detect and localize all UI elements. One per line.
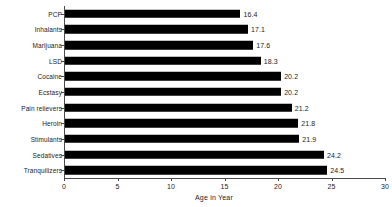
bar-value-label: 24.5 <box>330 167 344 174</box>
y-axis-tick <box>61 14 64 15</box>
x-axis-tick <box>385 178 386 181</box>
category-label: Ecstasy <box>39 88 62 95</box>
y-axis-tick <box>61 92 64 93</box>
bar <box>65 150 324 159</box>
bar-value-label: 21.9 <box>302 135 316 142</box>
bar-row: LSD18.3 <box>0 53 392 69</box>
bar <box>65 166 327 175</box>
bar-value-label: 21.8 <box>301 120 315 127</box>
bar <box>65 135 299 144</box>
bar <box>65 25 248 34</box>
x-axis-tick-label: 10 <box>167 183 175 190</box>
bar-value-label: 24.2 <box>327 151 341 158</box>
category-label: Inhalants <box>35 26 62 33</box>
category-label: PCP <box>48 10 62 17</box>
bar-row: Marijuana17.6 <box>0 37 392 53</box>
x-axis-tick-label: 5 <box>116 183 120 190</box>
bar-value-label: 17.6 <box>256 42 270 49</box>
x-axis-tick <box>278 178 279 181</box>
plot-area: PCP16.4Inhalants17.1Marijuana17.6LSD18.3… <box>0 0 392 207</box>
x-axis-tick-label: 20 <box>274 183 282 190</box>
x-axis-title: Age in Year <box>0 194 392 201</box>
bar <box>65 41 253 50</box>
category-label: Heroin <box>42 120 62 127</box>
bar-row: Inhalants17.1 <box>0 22 392 38</box>
bar-row: Heroin21.8 <box>0 115 392 131</box>
x-axis-tick <box>225 178 226 181</box>
bar-row: PCP16.4 <box>0 6 392 22</box>
bar-row: Stimulants21.9 <box>0 131 392 147</box>
x-axis-tick-label: 0 <box>62 183 66 190</box>
y-axis-tick <box>61 45 64 46</box>
bar-value-label: 17.1 <box>251 26 265 33</box>
bar-row: Pain relievers21.2 <box>0 100 392 116</box>
y-axis-tick <box>61 170 64 171</box>
bar-value-label: 18.3 <box>264 57 278 64</box>
bar-row: Cocaine20.2 <box>0 69 392 85</box>
y-axis-tick <box>61 155 64 156</box>
bar-row: Sedatives24.2 <box>0 147 392 163</box>
bar <box>65 119 298 128</box>
x-axis-tick <box>332 178 333 181</box>
bar <box>65 10 240 19</box>
bar <box>65 88 281 97</box>
x-axis-tick <box>118 178 119 181</box>
x-axis-tick-label: 15 <box>221 183 229 190</box>
category-label: Stimulants <box>31 135 62 142</box>
y-axis-tick <box>61 108 64 109</box>
category-label: Sedatives <box>33 151 62 158</box>
x-axis-tick <box>64 178 65 181</box>
bar-value-label: 20.2 <box>284 88 298 95</box>
bar-value-label: 16.4 <box>243 10 257 17</box>
x-axis-title-text: Age in Year <box>195 194 233 201</box>
x-axis-tick-label: 30 <box>381 183 389 190</box>
x-axis-tick-label: 25 <box>328 183 336 190</box>
category-label: Marijuana <box>33 42 62 49</box>
bar <box>65 103 292 112</box>
category-label: Tranquilizers <box>24 167 62 174</box>
x-axis-tick <box>171 178 172 181</box>
bar-row: Tranquilizers24.5 <box>0 162 392 178</box>
bar-value-label: 20.2 <box>284 73 298 80</box>
y-axis-tick <box>61 29 64 30</box>
y-axis-tick <box>61 76 64 77</box>
y-axis-tick <box>61 61 64 62</box>
y-axis-tick <box>61 139 64 140</box>
bar <box>65 56 261 65</box>
bar-chart: PCP16.4Inhalants17.1Marijuana17.6LSD18.3… <box>0 0 392 207</box>
category-label: Cocaine <box>37 73 62 80</box>
bar-value-label: 21.2 <box>295 104 309 111</box>
y-axis-tick <box>61 123 64 124</box>
bar-row: Ecstasy20.2 <box>0 84 392 100</box>
category-label: Pain relievers <box>21 104 62 111</box>
bar <box>65 72 281 81</box>
